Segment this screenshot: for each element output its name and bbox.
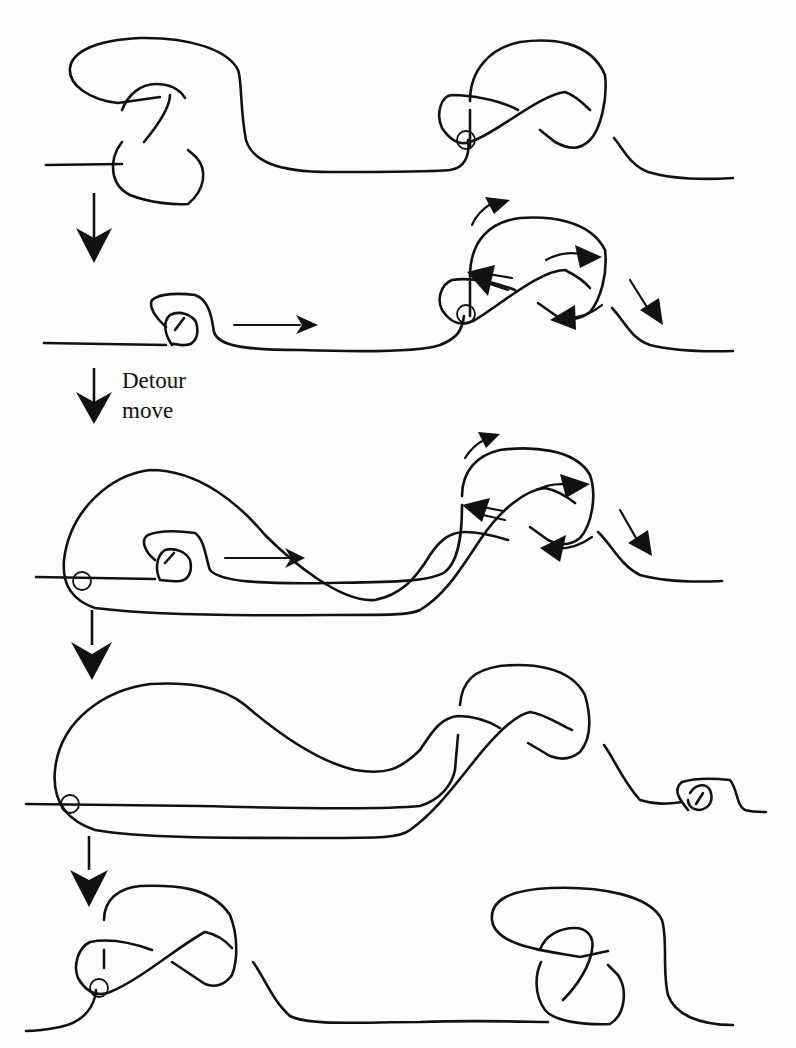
down-arrow-1 <box>76 193 112 263</box>
step-1 <box>46 38 733 204</box>
detour-move-label: Detour move <box>122 366 186 426</box>
knot-diagram-figure <box>0 0 796 1048</box>
virtual-crossing-icon <box>457 305 475 323</box>
down-arrow-2 <box>76 368 112 424</box>
step-5 <box>26 886 733 1031</box>
label-line-1: Detour <box>122 366 186 396</box>
step-2 <box>44 197 733 351</box>
step-4 <box>26 665 766 838</box>
step-3 <box>36 432 722 615</box>
down-arrow-4 <box>70 836 108 907</box>
down-arrow-3 <box>71 610 112 680</box>
label-line-2: move <box>122 396 186 426</box>
virtual-crossing-icon <box>73 572 91 590</box>
